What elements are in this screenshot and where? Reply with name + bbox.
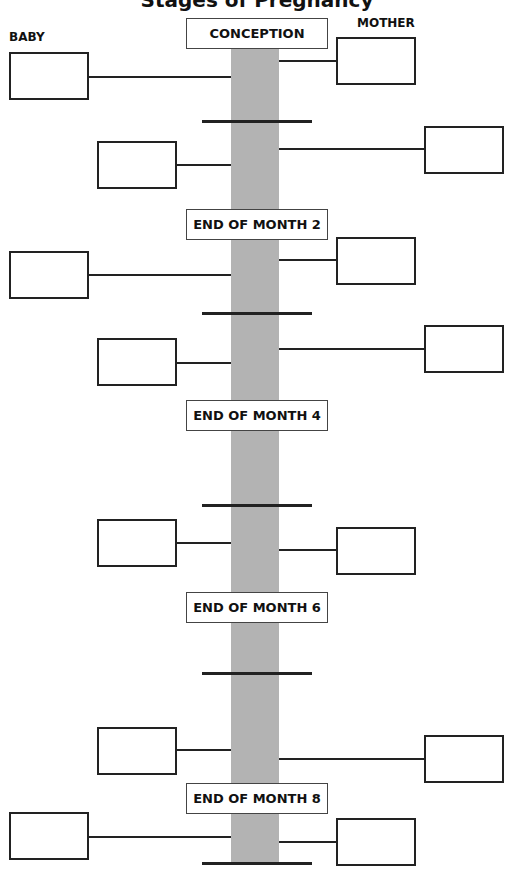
milestone-month-8: END OF MONTH 8 (186, 783, 328, 814)
mother-connector-5 (279, 549, 336, 551)
tick-month-7 (202, 672, 312, 675)
mother-box-5[interactable] (336, 527, 416, 575)
mother-box-6[interactable] (424, 735, 504, 783)
mother-box-3[interactable] (336, 237, 416, 285)
tick-month-3 (202, 312, 312, 315)
mother-connector-2 (279, 148, 424, 150)
tick-month-1 (202, 120, 312, 123)
mother-box-2[interactable] (424, 126, 504, 174)
baby-box-7[interactable] (9, 812, 89, 860)
baby-connector-3 (89, 274, 231, 276)
milestone-month-4: END OF MONTH 4 (186, 400, 328, 431)
baby-box-3[interactable] (9, 251, 89, 299)
mother-box-7[interactable] (336, 818, 416, 866)
baby-connector-1 (89, 76, 231, 78)
baby-box-4[interactable] (97, 338, 177, 386)
mother-connector-6 (279, 758, 424, 760)
mother-connector-7 (279, 841, 336, 843)
milestone-conception: CONCEPTION (186, 18, 328, 49)
mother-connector-3 (279, 259, 336, 261)
baby-connector-4 (177, 362, 231, 364)
milestone-month-2: END OF MONTH 2 (186, 209, 328, 240)
baby-connector-5 (177, 542, 231, 544)
baby-connector-6 (177, 749, 231, 751)
baby-column-label: BABY (9, 30, 45, 44)
baby-box-5[interactable] (97, 519, 177, 567)
mother-column-label: MOTHER (357, 16, 415, 30)
timeline-bar (231, 48, 279, 863)
mother-connector-4 (279, 348, 424, 350)
tick-month-9 (202, 862, 312, 865)
baby-connector-7 (89, 836, 231, 838)
mother-connector-1 (279, 60, 336, 62)
baby-box-2[interactable] (97, 141, 177, 189)
baby-connector-2 (177, 164, 231, 166)
diagram-title: Stages of Pregnancy (0, 0, 514, 12)
baby-box-1[interactable] (9, 52, 89, 100)
baby-box-6[interactable] (97, 727, 177, 775)
mother-box-4[interactable] (424, 325, 504, 373)
milestone-month-6: END OF MONTH 6 (186, 592, 328, 623)
mother-box-1[interactable] (336, 37, 416, 85)
tick-month-5 (202, 504, 312, 507)
